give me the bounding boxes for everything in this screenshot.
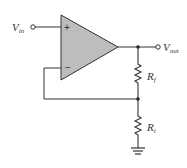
ri-resistor-icon	[135, 99, 141, 148]
vin-label: Vin	[12, 21, 25, 35]
vout-label: Vout	[163, 41, 180, 55]
vout-terminal-icon	[156, 45, 160, 49]
minus-sign: −	[65, 62, 71, 73]
ri-label: Ri	[146, 121, 156, 135]
vin-terminal: Vin	[12, 21, 61, 35]
circuit-diagram: Vin + − Vout Rf Ri	[0, 0, 187, 168]
vin-terminal-icon	[31, 25, 35, 29]
rf-label: Rf	[146, 70, 157, 84]
ground-icon	[131, 148, 145, 154]
rf-resistor-icon	[135, 47, 141, 99]
feedback-wire	[44, 68, 138, 99]
plus-sign: +	[64, 22, 70, 33]
